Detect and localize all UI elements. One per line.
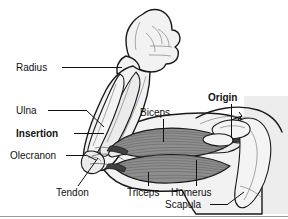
label-origin: Origin	[208, 92, 237, 103]
label-triceps: Triceps	[127, 187, 159, 198]
label-insertion: Insertion	[16, 128, 58, 139]
label-tendon: Tendon	[56, 187, 89, 198]
anatomy-figure: Radius Ulna Insertion Olecranon Tendon B…	[0, 0, 288, 219]
label-olecranon: Olecranon	[10, 150, 56, 161]
label-ulna: Ulna	[16, 105, 37, 116]
label-scapula: Scapula	[165, 199, 202, 210]
label-radius: Radius	[16, 62, 47, 73]
label-humerus: Humerus	[171, 187, 212, 198]
label-biceps: Biceps	[140, 107, 170, 118]
